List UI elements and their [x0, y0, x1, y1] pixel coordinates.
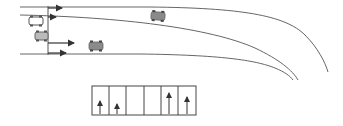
road-diagram	[0, 0, 343, 126]
car-icon	[35, 31, 48, 42]
road-center-divider	[20, 15, 298, 80]
car-icon	[29, 16, 43, 27]
car-icon	[89, 41, 103, 52]
road-bottom-edge	[20, 54, 293, 80]
lane-box-grid	[92, 86, 196, 115]
car-icon	[151, 10, 166, 22]
